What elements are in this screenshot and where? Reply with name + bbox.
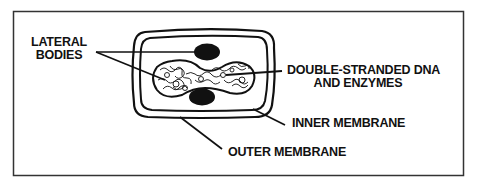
label-lateral-bodies-line2: BODIES [28,49,90,62]
label-dna-line2: AND ENZYMES [287,77,429,90]
diagram-svg [0,0,480,188]
lateral-body-top [194,44,220,61]
diagram-canvas: LATERAL BODIES DOUBLE-STRANDED DNA AND E… [0,0,480,188]
label-outer-membrane: OUTER MEMBRANE [228,146,346,159]
label-dna-enzymes: DOUBLE-STRANDED DNA AND ENZYMES [287,64,429,90]
label-lateral-bodies: LATERAL BODIES [28,36,90,62]
label-inner-membrane: INNER MEMBRANE [292,117,405,130]
lateral-body-bottom [189,89,215,106]
leader-outer-membrane [180,117,222,149]
leader-lateral-core [96,52,165,80]
